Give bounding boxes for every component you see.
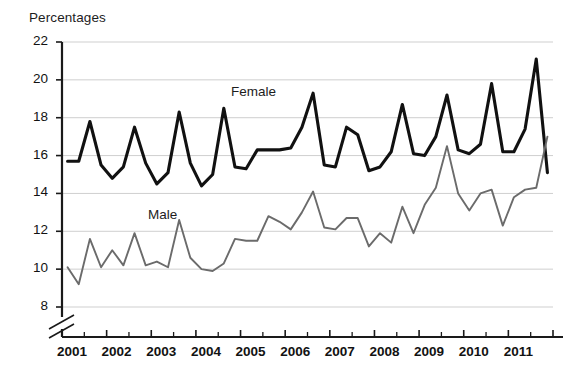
plot-area xyxy=(0,0,567,387)
chart-container: Percentages 810121416182022 200120022003… xyxy=(0,0,567,387)
y-axis-tick-label: 10 xyxy=(20,260,48,275)
y-axis-tick-label: 20 xyxy=(20,71,48,86)
y-axis-tick-label: 8 xyxy=(20,298,48,313)
series-label-female: Female xyxy=(231,84,276,99)
y-axis-tick-label: 14 xyxy=(20,184,48,199)
y-axis-tick-label: 12 xyxy=(20,222,48,237)
series-line-male xyxy=(68,137,548,285)
series-label-male: Male xyxy=(148,207,177,222)
y-axis-tick-label: 18 xyxy=(20,109,48,124)
y-axis-tick-label: 22 xyxy=(20,33,48,48)
x-axis-tick-label: 2011 xyxy=(488,344,548,359)
y-axis-tick-label: 16 xyxy=(20,147,48,162)
series-line-female xyxy=(68,59,548,186)
